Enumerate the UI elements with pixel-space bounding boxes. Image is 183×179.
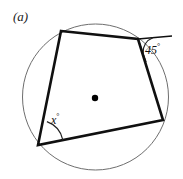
exterior-ray-line (138, 36, 172, 39)
circle-center-dot (92, 95, 98, 101)
angle-45-value: 45 (145, 43, 157, 57)
part-label: (a) (13, 10, 28, 23)
figure-canvas (0, 0, 183, 179)
angle-label-x: x° (51, 113, 60, 126)
geometry-figure: (a) 45° x° (0, 0, 183, 179)
angle-x-degree-symbol: ° (56, 112, 59, 121)
angle-45-degree-symbol: ° (157, 42, 160, 51)
angle-label-45: 45° (145, 43, 160, 56)
